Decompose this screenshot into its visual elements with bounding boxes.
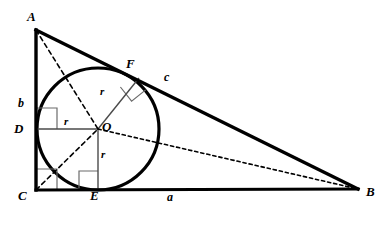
tangent-point-label-D: D (14, 122, 23, 135)
tangent-point-label-E: E (90, 189, 99, 202)
geometry-canvas (0, 0, 387, 226)
tangent-point-label-F: F (126, 57, 135, 70)
vertex-label-A: A (27, 10, 36, 23)
right-angle-at-F-mark (120, 87, 145, 101)
radius-label-to-D: r (64, 116, 68, 127)
vertex-label-B: B (366, 185, 375, 198)
bisector-O-B (98, 129, 358, 189)
side-label-b: b (18, 97, 24, 109)
side-a-CB (36, 189, 358, 190)
radius-label-to-E: r (101, 149, 105, 160)
side-label-c: c (164, 71, 169, 83)
radius-label-to-F: r (100, 86, 104, 97)
incircle-center-label-O: O (102, 120, 111, 133)
side-label-a: a (167, 191, 173, 203)
side-c-AB (36, 30, 358, 189)
geometry-figure: A B C D E F O b a c r r r (0, 0, 387, 226)
vertex-label-C: C (18, 189, 27, 202)
